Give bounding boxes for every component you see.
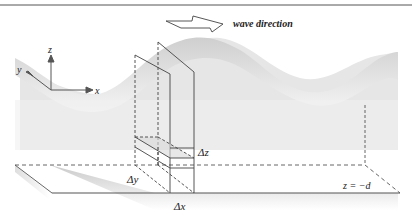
- water-body: [15, 100, 398, 150]
- axis-label-x: x: [94, 85, 100, 96]
- wave-control-volume-diagram: z x y wave direction Δz Δy Δx z = −d: [0, 0, 412, 224]
- delta-z-label: Δz: [197, 146, 209, 158]
- delta-y-label: Δy: [126, 173, 138, 185]
- x-arrow-icon: [86, 87, 93, 93]
- wave-direction-label: wave direction: [233, 18, 293, 29]
- axis-label-y: y: [16, 64, 22, 75]
- diagram-svg: z x y wave direction Δz Δy Δx z = −d: [0, 0, 412, 224]
- wave-direction-arrow-icon: [166, 16, 223, 32]
- seabed-depth-label: z = −d: [342, 180, 371, 191]
- delta-x-label: Δx: [173, 200, 185, 212]
- axis-label-z: z: [47, 44, 52, 55]
- z-arrow-icon: [48, 55, 54, 62]
